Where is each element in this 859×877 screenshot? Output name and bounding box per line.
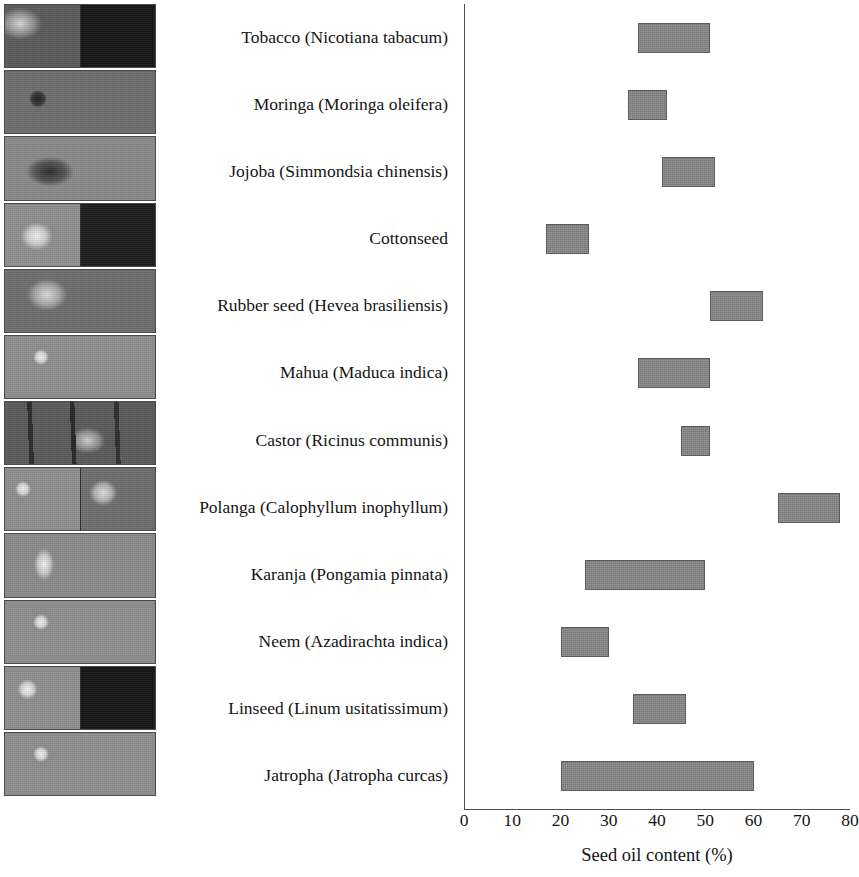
x-tick-label: 80: [841, 812, 859, 830]
photo-strip: [4, 4, 156, 796]
jatropha-photo: [4, 732, 156, 796]
range-bar: [638, 358, 710, 388]
jatropha-photo-fruit-on-branch: [5, 733, 155, 795]
range-bar: [778, 493, 841, 523]
polanga-photo: [4, 467, 156, 531]
cottonseed-photo-seed-pile: [80, 204, 156, 266]
category-label: Cottonseed: [369, 230, 448, 248]
photo-grain-overlay: [5, 468, 80, 530]
linseed-photo: [4, 666, 156, 730]
x-tick-label: 70: [793, 812, 811, 830]
photo-grain-overlay: [81, 204, 156, 266]
linseed-photo-linseed-pile: [80, 667, 156, 729]
photo-grain-overlay: [81, 468, 156, 530]
x-tick-label: 40: [648, 812, 666, 830]
tobacco-photo-seeds: [80, 5, 156, 67]
category-label: Mahua (Maduca indica): [280, 364, 448, 382]
moringa-photo: [4, 70, 156, 134]
x-axis-title: Seed oil content (%): [464, 845, 850, 866]
range-bar: [561, 627, 609, 657]
polanga-photo-nuts: [80, 468, 156, 530]
range-bar: [710, 291, 763, 321]
range-bar: [662, 157, 715, 187]
x-tick-label: 0: [460, 812, 469, 830]
jojoba-photo-branch-with-fruit: [5, 137, 155, 199]
x-tick-label: 60: [745, 812, 763, 830]
linseed-photo-flax-plant: [5, 667, 80, 729]
cottonseed-photo-cotton-boll: [5, 204, 80, 266]
mahua-photo: [4, 335, 156, 399]
moringa-photo-pod-with-seeds: [5, 71, 155, 133]
plot-area: [464, 4, 850, 810]
range-bar: [546, 224, 589, 254]
category-label-column: Tobacco (Nicotiana tabacum)Moringa (Mori…: [160, 0, 456, 800]
photo-grain-overlay: [5, 137, 155, 199]
karanja-photo: [4, 533, 156, 597]
tobacco-photo: [4, 4, 156, 68]
range-bar: [681, 426, 710, 456]
jojoba-photo: [4, 136, 156, 200]
photo-grain-overlay: [81, 667, 156, 729]
category-label: Karanja (Pongamia pinnata): [251, 566, 448, 584]
photo-grain-overlay: [81, 5, 156, 67]
range-bar: [638, 23, 710, 53]
range-bar: [561, 761, 754, 791]
neem-photo-fruit-on-branch: [5, 601, 155, 663]
category-label: Neem (Azadirachta indica): [259, 633, 448, 651]
category-label: Rubber seed (Hevea brasiliensis): [217, 297, 448, 315]
photo-grain-overlay: [5, 71, 155, 133]
photo-grain-overlay: [5, 601, 155, 663]
rubber-seed-photo-seeds-and-shells: [5, 270, 155, 332]
karanja-photo-pods-on-branch: [5, 534, 155, 596]
category-label: Jatropha (Jatropha curcas): [264, 767, 448, 785]
polanga-photo-fruit-on-branch: [5, 468, 80, 530]
cottonseed-photo: [4, 203, 156, 267]
x-tick-label: 30: [600, 812, 618, 830]
photo-grain-overlay: [5, 534, 155, 596]
castor-photo-castor-plant: [5, 402, 155, 464]
castor-photo: [4, 401, 156, 465]
photo-grain-overlay: [5, 402, 155, 464]
range-bar: [633, 694, 686, 724]
photo-grain-overlay: [5, 204, 80, 266]
y-axis-line: [464, 4, 465, 810]
neem-photo: [4, 600, 156, 664]
photo-grain-overlay: [5, 733, 155, 795]
photo-grain-overlay: [5, 336, 155, 398]
tobacco-photo-plant: [5, 5, 80, 67]
range-bar: [585, 560, 706, 590]
range-bar: [628, 90, 667, 120]
category-label: Tobacco (Nicotiana tabacum): [241, 29, 448, 47]
category-label: Moringa (Moringa oleifera): [254, 96, 448, 114]
photo-grain-overlay: [5, 270, 155, 332]
x-tick-label: 50: [697, 812, 715, 830]
category-label: Polanga (Calophyllum inophyllum): [199, 499, 448, 517]
category-label: Castor (Ricinus communis): [256, 432, 448, 450]
photo-grain-overlay: [5, 5, 80, 67]
x-tick-label: 10: [504, 812, 522, 830]
mahua-photo-fruit-on-branch: [5, 336, 155, 398]
photo-grain-overlay: [5, 667, 80, 729]
x-axis-tick-labels: 01020304050607080: [464, 812, 850, 838]
category-label: Jojoba (Simmondsia chinensis): [229, 163, 448, 181]
rubber-seed-photo: [4, 269, 156, 333]
x-tick-label: 20: [552, 812, 570, 830]
category-label: Linseed (Linum usitatissimum): [228, 700, 448, 718]
